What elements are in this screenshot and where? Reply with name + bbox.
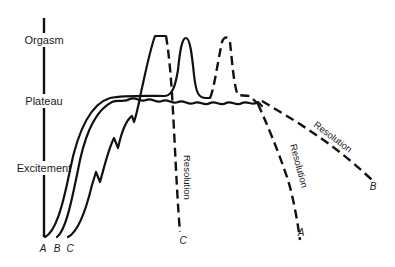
curve-b-resolution [262,101,372,180]
curve-label-b-end: B [370,181,377,192]
axis-label-plateau: Plateau [25,95,62,107]
curve-label-a-end: A [297,227,305,238]
curve-label-c-end: C [179,235,187,246]
curve-a-resolution [258,104,300,240]
curve-label-b-start: B [54,243,61,254]
resolution-label-b: Resolution [312,119,354,155]
curve-label-a-start: A [39,243,47,254]
curve-a-second-orgasm-peak [210,38,258,105]
curve-c-excitement-orgasm [68,36,166,237]
resolution-label-c: Resolution [182,155,193,200]
curve-label-c-start: C [66,243,74,254]
sexual-response-cycle-diagram: Orgasm Plateau Excitement Resolution Res… [0,0,395,267]
resolution-label-a: Resolution [288,143,310,189]
axis-label-excitement: Excitement [17,162,71,174]
axis-label-orgasm: Orgasm [24,34,63,46]
